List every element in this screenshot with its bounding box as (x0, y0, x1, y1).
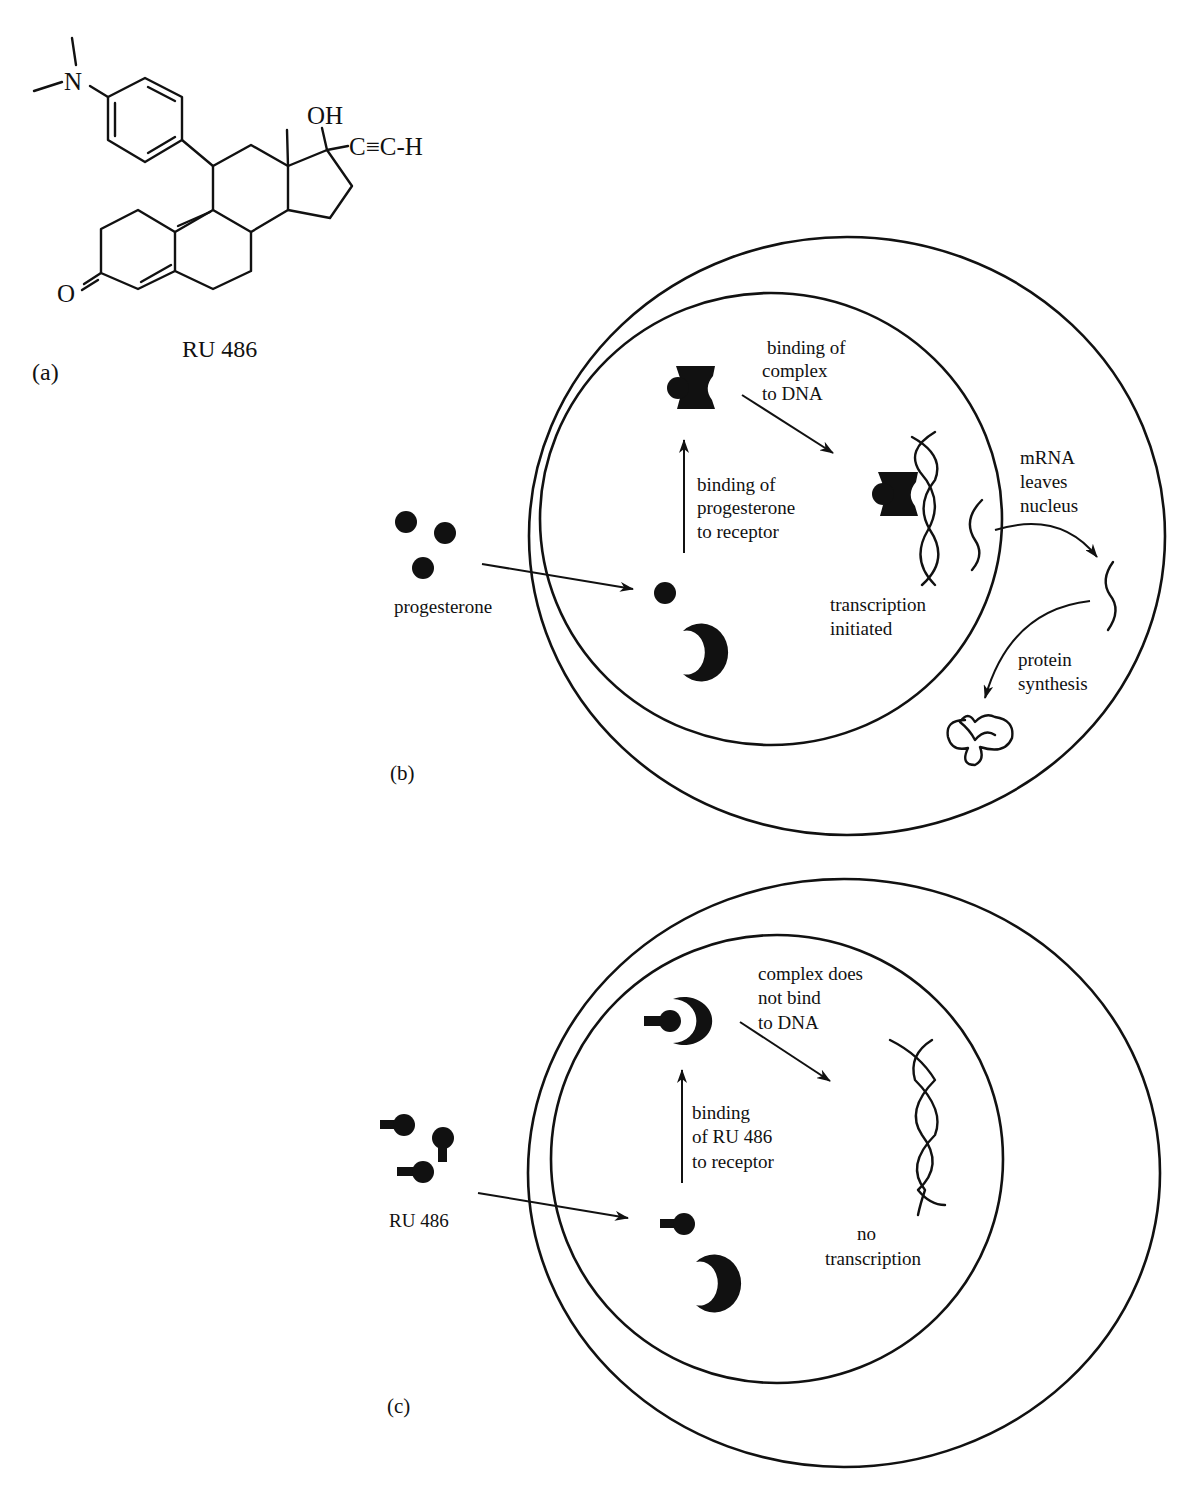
result-label: no transcription (825, 1223, 922, 1269)
ethynyl-group: C≡C-H (349, 133, 423, 160)
step1-label: binding of progesterone to receptor (697, 474, 800, 542)
panel-c-label: (c) (387, 1394, 410, 1418)
ru486-molecules (380, 1114, 454, 1183)
panel-b-label: (b) (390, 761, 415, 785)
mrna-strand (970, 500, 982, 570)
ru486-structure: N O OH C≡C-H (34, 38, 423, 307)
progesterone-receptor-complex (667, 366, 715, 409)
synthesis-label: protein synthesis (1018, 649, 1088, 694)
export-label: mRNA leaves nucleus (1020, 447, 1079, 516)
receptor-icon (683, 623, 728, 681)
hydroxyl-group: OH (307, 102, 343, 129)
cell-membrane (529, 237, 1165, 835)
protein-icon (948, 715, 1013, 765)
dna-helix (912, 432, 938, 585)
entry-arrow (482, 564, 633, 589)
panel-a-label: (a) (32, 359, 59, 385)
ru486-in-nucleus (660, 1213, 695, 1235)
progesterone-molecules (395, 511, 456, 579)
receptor-icon (696, 1255, 741, 1313)
result-label: transcription initiated (830, 594, 931, 639)
nitrogen-atom: N (64, 68, 82, 95)
mrna-export-arrow (995, 524, 1097, 557)
step1-label: binding of RU 486 to receptor (692, 1102, 777, 1172)
molecule-name: RU 486 (182, 336, 257, 362)
ru486-mechanism-figure: N O OH C≡C-H RU 486 (a) (0, 0, 1192, 1487)
progesterone-in-nucleus (654, 582, 676, 604)
step2-label: binding of complex to DNA (762, 337, 850, 404)
ru486-label: RU 486 (389, 1210, 449, 1231)
ketone-oxygen-atom: O (57, 280, 75, 307)
complex-on-dna (872, 472, 918, 516)
cytoplasmic-mrna (1106, 562, 1116, 630)
progesterone-label: progesterone (394, 596, 492, 617)
dna-helix (890, 1040, 945, 1215)
ru486-receptor-complex (644, 997, 712, 1045)
step2-label: complex does not bind to DNA (758, 963, 868, 1033)
panel-b-cell (529, 237, 1165, 835)
